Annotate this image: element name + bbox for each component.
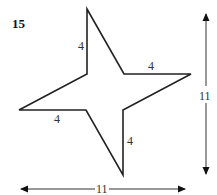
side-label-top-horizontal: 4	[148, 59, 154, 73]
side-label-bottom-horizontal: 4	[54, 112, 60, 126]
star-shape	[19, 9, 191, 175]
problem-number: 15	[12, 16, 26, 31]
width-label: 11	[96, 182, 108, 195]
side-label-left-vertical: 4	[78, 39, 84, 53]
star-diagram: 15 4 4 4 4 11 11	[0, 0, 217, 195]
height-label: 11	[199, 89, 211, 103]
side-label-right-vertical: 4	[127, 134, 133, 148]
